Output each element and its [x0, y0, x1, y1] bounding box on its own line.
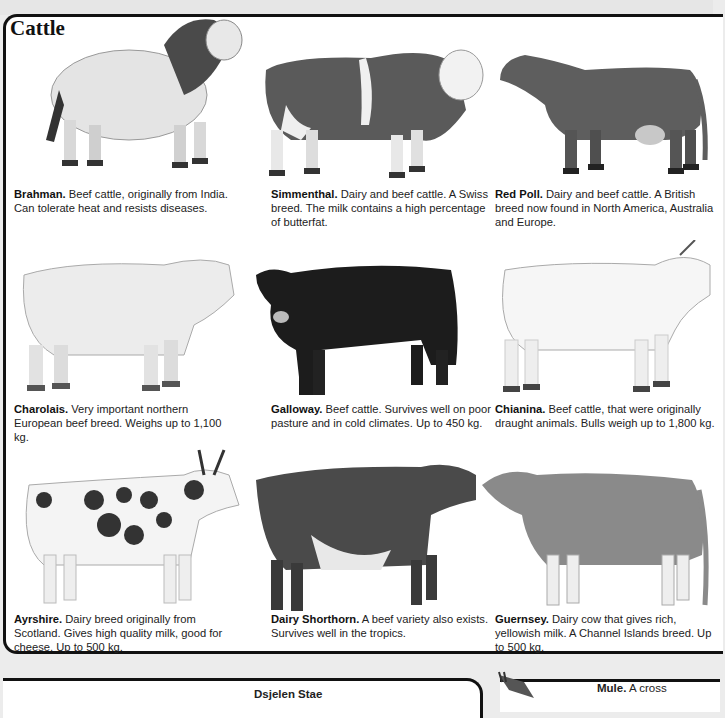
breed-name: Chianina. — [495, 403, 545, 415]
breed-caption: Galloway. Beef cattle. Survives well on … — [271, 402, 496, 430]
breed-name: Simmenthal. — [271, 188, 338, 200]
cow-icon — [14, 445, 244, 610]
breed-red-poll: Red Poll. Dairy and beef cattle. A Briti… — [495, 10, 725, 230]
cow-icon — [34, 10, 249, 170]
mule-caption: Mule. A cross — [597, 682, 667, 694]
cow-icon — [251, 30, 491, 180]
charolais-illustration — [14, 245, 239, 395]
brahman-illustration — [34, 10, 249, 170]
ayrshire-illustration — [14, 445, 244, 610]
breed-caption: Charolais. Very important northern Europ… — [14, 402, 239, 444]
breed-caption: Brahman. Beef cattle, originally from In… — [14, 187, 239, 215]
breed-name: Guernsey. — [495, 613, 549, 625]
mule-icon — [494, 670, 534, 700]
dairy-shorthorn-illustration — [251, 455, 481, 615]
breed-ayrshire: Ayrshire. Dairy breed originally from Sc… — [14, 445, 244, 645]
next-panel-left — [3, 678, 483, 718]
mule-illustration — [494, 670, 534, 700]
breed-name: Charolais. — [14, 403, 68, 415]
cow-icon — [14, 245, 239, 395]
chianina-illustration — [485, 240, 713, 400]
cow-icon — [251, 255, 471, 405]
red-poll-illustration — [495, 30, 710, 180]
breed-caption: Chianina. Beef cattle, that were origina… — [495, 402, 720, 430]
cow-icon — [485, 240, 713, 400]
mule-name: Mule. — [597, 682, 626, 694]
breed-name: Ayrshire. — [14, 613, 62, 625]
cow-icon — [495, 30, 710, 180]
breed-caption: Red Poll. Dairy and beef cattle. A Briti… — [495, 187, 720, 229]
breed-caption: Guernsey. Dairy cow that gives rich, yel… — [495, 612, 720, 654]
guernsey-illustration — [477, 455, 712, 615]
breed-name: Brahman. — [14, 188, 66, 200]
breed-name: Galloway. — [271, 403, 322, 415]
next-panel-heading: Dsjelen Stae — [254, 688, 322, 700]
breed-charolais: Charolais. Very important northern Europ… — [14, 240, 244, 440]
breed-caption: Simmenthal. Dairy and beef cattle. A Swi… — [271, 187, 496, 229]
cow-icon — [251, 455, 481, 615]
breed-brahman: Brahman. Beef cattle, originally from In… — [14, 10, 244, 230]
breed-caption: Ayrshire. Dairy breed originally from Sc… — [14, 612, 239, 654]
breed-simmenthal: Simmenthal. Dairy and beef cattle. A Swi… — [271, 10, 501, 230]
breed-caption: Dairy Shorthorn. A beef variety also exi… — [271, 612, 496, 640]
simmenthal-illustration — [251, 30, 491, 180]
breed-guernsey: Guernsey. Dairy cow that gives rich, yel… — [495, 445, 725, 645]
mule-description: A cross — [626, 682, 666, 694]
breed-dairy-shorthorn: Dairy Shorthorn. A beef variety also exi… — [271, 445, 501, 645]
breed-name: Red Poll. — [495, 188, 543, 200]
cow-icon — [477, 455, 712, 615]
breed-name: Dairy Shorthorn. — [271, 613, 359, 625]
breed-chianina: Chianina. Beef cattle, that were origina… — [495, 240, 725, 440]
galloway-illustration — [251, 255, 471, 405]
breed-galloway: Galloway. Beef cattle. Survives well on … — [271, 240, 501, 440]
